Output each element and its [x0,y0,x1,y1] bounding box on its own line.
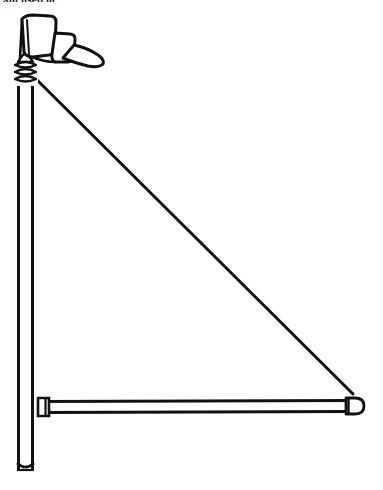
boom-bottom-edge [42,412,353,413]
drawing-canvas: am used of [0,0,383,490]
horizontal-boom [38,398,364,416]
diagonal-stay-line [34,77,353,394]
collar-ring-1 [15,62,36,68]
mast-body-fill [18,70,33,470]
diagonal-stay [34,77,353,394]
vertical-mast [17,68,34,470]
collar-ring-2 [15,69,36,75]
boom-top-edge [42,401,353,402]
boom-mount-bracket [38,398,49,416]
flagpole-line-drawing [0,0,383,490]
collar-ring-3 [15,76,36,82]
